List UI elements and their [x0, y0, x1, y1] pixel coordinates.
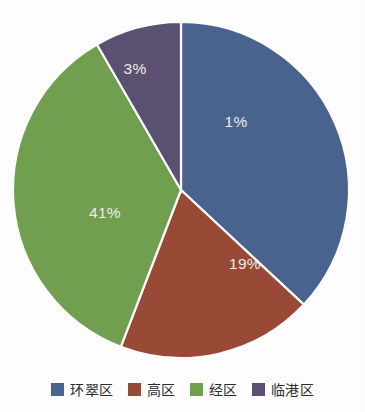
legend-swatch-gaoqu [128, 383, 141, 396]
legend-item-lingangqu[interactable]: 临港区 [252, 379, 315, 399]
pie-label-jingqu: 41% [89, 204, 121, 221]
legend-item-huancuiqu[interactable]: 环翠区 [51, 379, 114, 399]
legend-label-jingqu: 经区 [209, 379, 238, 399]
legend-label-lingangqu: 临港区 [271, 379, 315, 399]
pie-slices [13, 22, 349, 358]
chart-legend: 环翠区 高区 经区 临港区 [0, 366, 365, 412]
pie-plot-area: 1% 19% 41% 3% [0, 0, 365, 360]
pie-svg: 1% 19% 41% 3% [0, 0, 365, 360]
legend-label-huancuiqu: 环翠区 [70, 379, 114, 399]
legend-item-jingqu[interactable]: 经区 [190, 379, 238, 399]
pie-chart-figure: 1% 19% 41% 3% 环翠区 高区 经区 临港区 [0, 0, 365, 412]
pie-label-gaoqu: 19% [229, 255, 261, 272]
legend-label-gaoqu: 高区 [147, 379, 176, 399]
legend-swatch-lingangqu [252, 383, 265, 396]
legend-item-gaoqu[interactable]: 高区 [128, 379, 176, 399]
pie-label-huancuiqu: 1% [224, 113, 247, 130]
legend-swatch-jingqu [190, 383, 203, 396]
pie-label-lingangqu: 3% [123, 60, 146, 77]
legend-swatch-huancuiqu [51, 383, 64, 396]
